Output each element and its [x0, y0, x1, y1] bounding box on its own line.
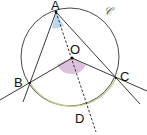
line-AC — [56, 12, 140, 104]
geometry-diagram: A O B C D 𝒞 — [0, 0, 147, 135]
label-B: B — [14, 75, 23, 90]
point-C — [115, 77, 117, 79]
label-D: D — [75, 111, 84, 126]
label-C: C — [120, 69, 129, 84]
line-AB — [23, 12, 56, 102]
label-A: A — [51, 0, 60, 13]
arc-BC — [30, 78, 116, 106]
label-circle: 𝒞 — [104, 5, 115, 17]
central-angle-BOC-marker — [57, 58, 86, 74]
line-OB — [0, 58, 72, 100]
label-O: O — [70, 42, 80, 57]
point-B — [29, 82, 31, 84]
